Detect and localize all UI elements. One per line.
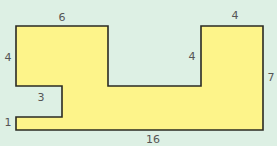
label-notch-width: 3 — [38, 92, 45, 104]
label-bottom-left-height: 1 — [5, 117, 12, 129]
yellow-rectilinear-shape — [16, 26, 263, 130]
label-right-block-width: 4 — [232, 10, 239, 22]
label-right-height: 7 — [268, 72, 275, 84]
label-left-height: 4 — [5, 52, 12, 64]
label-top-left-width: 6 — [59, 12, 66, 24]
diagram-canvas: 6 4 3 1 16 4 4 7 — [0, 0, 277, 146]
label-right-block-inner-height: 4 — [189, 51, 196, 63]
label-bottom-width: 16 — [146, 134, 160, 146]
